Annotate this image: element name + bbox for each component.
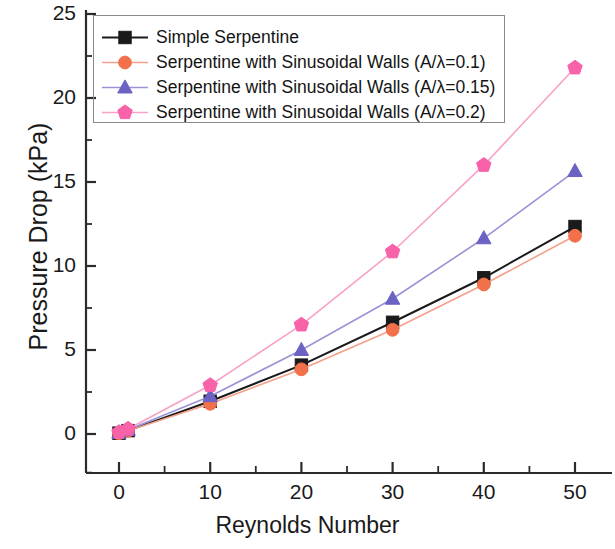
legend-item[interactable]: Simple Serpentine [94, 24, 299, 51]
data-marker-pentagon [203, 378, 217, 392]
y-tick-label: 15 [32, 169, 76, 193]
x-tick-label: 10 [185, 480, 235, 504]
data-marker-pentagon [118, 105, 132, 119]
legend-label: Serpentine with Sinusoidal Walls (A/λ=0.… [156, 54, 486, 71]
x-tick-label: 50 [550, 480, 600, 504]
series-line [119, 227, 575, 434]
legend-item[interactable]: Serpentine with Sinusoidal Walls (A/λ=0.… [94, 99, 486, 126]
data-marker-circle [295, 363, 308, 376]
x-tick-label: 0 [94, 480, 144, 504]
legend-symbol-circle-icon [94, 49, 156, 76]
data-marker-circle [386, 323, 399, 336]
y-axis-label: Pressure Drop (kPa) [24, 107, 53, 367]
data-marker-square [119, 31, 131, 43]
y-tick-label: 20 [32, 85, 76, 109]
legend-symbol-pentagon-icon [94, 99, 156, 126]
legend-item[interactable]: Serpentine with Sinusoidal Walls (A/λ=0.… [94, 49, 486, 76]
legend: Simple SerpentineSerpentine with Sinusoi… [93, 15, 505, 123]
x-tick-label: 40 [459, 480, 509, 504]
x-tick-label: 30 [368, 480, 418, 504]
x-axis-label: Reynolds Number [0, 512, 615, 539]
series-line [119, 171, 575, 433]
data-marker-triangle [294, 342, 308, 355]
data-marker-triangle [385, 291, 399, 304]
y-tick-label: 10 [32, 253, 76, 277]
data-marker-triangle [568, 163, 582, 176]
legend-symbol-square-icon [94, 24, 156, 51]
data-marker-circle [477, 278, 490, 291]
data-marker-triangle [118, 80, 132, 93]
chart-figure: Pressure Drop (kPa) Reynolds Number 0510… [0, 0, 615, 549]
series-2 [112, 163, 582, 438]
y-tick-label: 25 [32, 1, 76, 25]
legend-label: Simple Serpentine [156, 29, 299, 46]
data-marker-pentagon [568, 60, 582, 74]
x-tick-label: 20 [276, 480, 326, 504]
data-marker-triangle [477, 231, 491, 244]
y-tick-label: 5 [32, 337, 76, 361]
legend-symbol-triangle-icon [94, 74, 156, 101]
data-marker-circle [569, 229, 582, 242]
legend-label: Serpentine with Sinusoidal Walls (A/λ=0.… [156, 104, 486, 121]
data-marker-circle [119, 56, 132, 69]
legend-label: Serpentine with Sinusoidal Walls (A/λ=0.… [156, 79, 495, 96]
data-marker-pentagon [294, 317, 308, 331]
legend-item[interactable]: Serpentine with Sinusoidal Walls (A/λ=0.… [94, 74, 495, 101]
data-marker-pentagon [121, 421, 135, 435]
y-tick-label: 0 [32, 421, 76, 445]
